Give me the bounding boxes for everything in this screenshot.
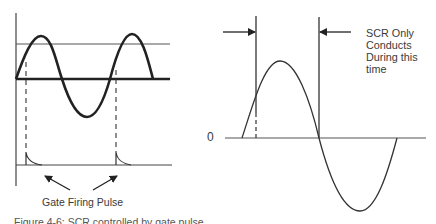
pulse-arrow-right [93,176,117,190]
scr-note-line-1: SCR Only [366,27,436,39]
gate-pulse-1 [26,152,42,165]
zero-axis-label: 0 [207,130,214,144]
scr-note-line-2: Conducts [366,39,436,51]
scr-note-line-4: time [366,63,436,75]
pulse-arrow-left [45,176,70,190]
left-waveform-diagram [16,13,172,190]
gate-pulse-2 [116,152,131,165]
ac-sine-wave [16,34,153,117]
gate-firing-pulse-label: Gate Firing Pulse [42,196,123,208]
scr-conduction-note: SCR Only Conducts During this time [366,27,436,75]
scr-note-line-3: During this [366,51,436,63]
figure-caption: Figure 4-6: SCR controlled by gate pulse [14,216,204,224]
